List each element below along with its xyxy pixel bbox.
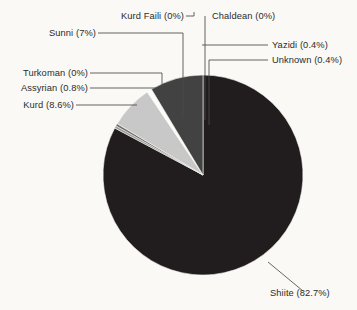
callout-label-unknown: Unknown (0.4%) <box>272 55 342 65</box>
callout-label-kurd-faili: Kurd Faili (0%) <box>121 11 184 21</box>
callout-label-yazidi: Yazidi (0.4%) <box>272 40 328 50</box>
callout-label-assyrian: Assyrian (0.8%) <box>21 83 88 93</box>
leader-line-turkoman <box>90 73 162 86</box>
leader-line-shiite <box>268 262 303 291</box>
callout-label-kurd: Kurd (8.6%) <box>23 100 74 110</box>
callout-label-turkoman: Turkoman (0%) <box>23 68 88 78</box>
callout-label-sunni: Sunni (7%) <box>49 28 96 38</box>
pie-chart-figure: Kurd Faili (0%) Chaldean (0%) Sunni (7%)… <box>0 0 357 310</box>
callout-label-chaldean: Chaldean (0%) <box>212 11 275 21</box>
pie-chart-svg: Kurd Faili (0%) Chaldean (0%) Sunni (7%)… <box>0 0 357 310</box>
callout-label-shiite: Shiite (82.7%) <box>270 288 330 298</box>
